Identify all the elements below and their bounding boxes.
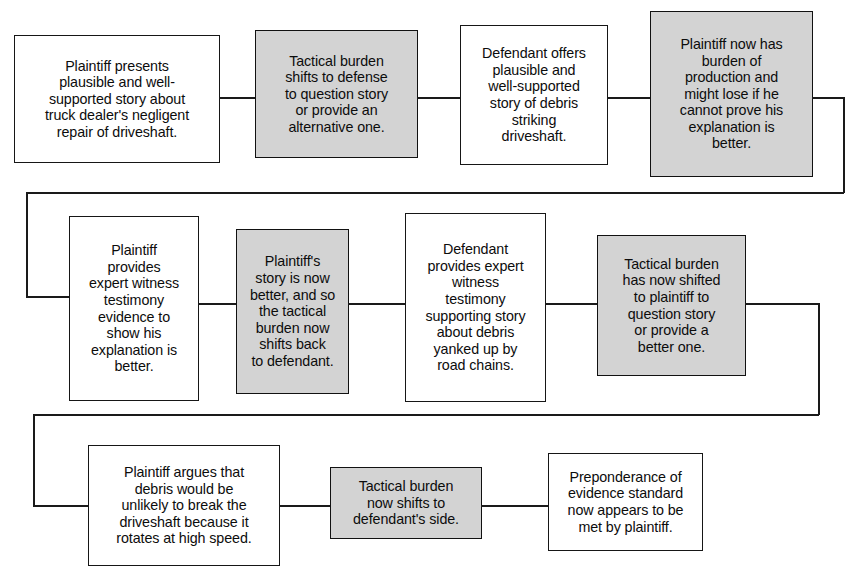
flow-node-2-label: Tactical burden shifts to defense to que…	[261, 53, 412, 136]
connector-10-11	[481, 505, 549, 507]
flow-node-1-label: Plaintiff presents plausible and well- s…	[20, 58, 214, 141]
flow-node-10[interactable]: Tactical burden now shifts to defendant'…	[330, 467, 482, 539]
connector-row2-exit	[745, 303, 819, 305]
connector-5-6	[198, 303, 237, 305]
connector-row1-exit	[812, 97, 844, 99]
flow-node-10-label: Tactical burden now shifts to defendant'…	[336, 478, 476, 528]
connector-row2-entry	[26, 296, 70, 298]
flow-node-2[interactable]: Tactical burden shifts to defense to que…	[255, 30, 418, 158]
flow-node-9[interactable]: Plaintiff argues that debris would be un…	[88, 445, 280, 566]
connector-row2-down	[818, 303, 820, 415]
flow-node-11-label: Preponderance of evidence standard now a…	[554, 469, 697, 535]
flow-node-1[interactable]: Plaintiff presents plausible and well- s…	[14, 35, 220, 163]
connector-1-2	[219, 97, 256, 99]
connector-9-10	[279, 505, 331, 507]
flow-node-4[interactable]: Plaintiff now has burden of production a…	[650, 11, 813, 177]
connector-7-8	[545, 303, 598, 305]
flow-node-4-label: Plaintiff now has burden of production a…	[656, 36, 807, 152]
connector-row2-down-left	[26, 192, 28, 297]
flow-node-11[interactable]: Preponderance of evidence standard now a…	[548, 453, 703, 551]
connector-row3-down-left	[33, 414, 35, 506]
flow-node-6-label: Plaintiff's story is now better, and so …	[242, 253, 343, 369]
connector-row3-entry-top	[33, 414, 819, 416]
connector-6-7	[348, 303, 406, 305]
flowchart-canvas: Plaintiff presents plausible and well- s…	[0, 0, 857, 579]
flow-node-7-label: Defendant provides expert witness testim…	[411, 241, 540, 374]
connector-2-3	[417, 97, 461, 99]
flow-node-7[interactable]: Defendant provides expert witness testim…	[405, 213, 546, 402]
flow-node-8-label: Tactical burden has now shifted to plain…	[603, 256, 740, 355]
flow-node-3-label: Defendant offers plausible and well-supp…	[466, 45, 602, 144]
connector-row3-entry	[33, 505, 89, 507]
flow-node-3[interactable]: Defendant offers plausible and well-supp…	[460, 25, 608, 165]
flow-node-5-label: Plaintiff provides expert witness testim…	[75, 242, 193, 375]
connector-row1-down	[843, 97, 845, 193]
flow-node-5[interactable]: Plaintiff provides expert witness testim…	[69, 216, 199, 401]
flow-node-8[interactable]: Tactical burden has now shifted to plain…	[597, 235, 746, 376]
connector-3-4	[607, 97, 651, 99]
flow-node-6[interactable]: Plaintiff's story is now better, and so …	[236, 229, 349, 394]
connector-row2-entry-top	[26, 192, 844, 194]
flow-node-9-label: Plaintiff argues that debris would be un…	[94, 464, 274, 547]
